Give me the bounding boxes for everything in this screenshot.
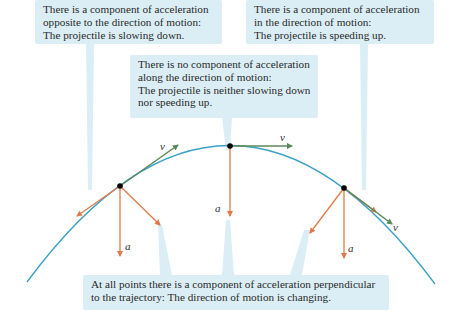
velocity-label: v⃗ (280, 131, 293, 143)
velocity-label: v⃗ (393, 221, 406, 233)
velocity-arrow-right (344, 188, 392, 224)
trajectory-diagram: v⃗ a⃗ v⃗ a⃗ v⃗ a⃗ (0, 0, 456, 322)
velocity-label: v⃗ (160, 140, 173, 152)
point-left (117, 183, 123, 189)
accel-perp-arrow-right (310, 188, 344, 233)
trajectory-curve (27, 145, 435, 284)
acceleration-label: a⃗ (348, 242, 362, 254)
point-right (341, 185, 347, 191)
acceleration-label: a⃗ (215, 202, 229, 214)
accel-perp-arrow-left (120, 186, 160, 225)
accel-tangential-arrow-left (77, 186, 120, 216)
point-apex (227, 143, 233, 149)
acceleration-label: a⃗ (125, 240, 139, 252)
